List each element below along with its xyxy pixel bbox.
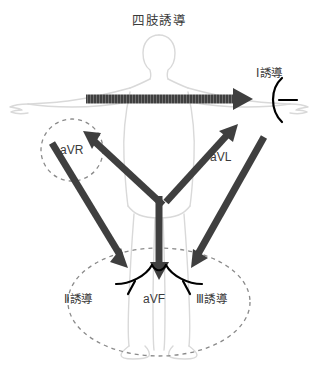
diagram-canvas: 四肢誘導 Ⅰ誘導 aVR aVL Ⅱ誘導 aVF Ⅲ誘導 — [0, 0, 318, 377]
up-left-arrow-icon — [83, 131, 163, 205]
limb-leads-svg — [0, 0, 318, 377]
page-title: 四肢誘導 — [0, 10, 318, 29]
label-lead-1: Ⅰ誘導 — [256, 64, 282, 80]
label-lead-2: Ⅱ誘導 — [64, 290, 93, 306]
label-avr: aVR — [60, 143, 83, 157]
label-lead-3: Ⅲ誘導 — [196, 290, 227, 306]
label-avf: aVF — [143, 292, 165, 306]
label-avl: aVL — [210, 150, 231, 164]
electrode-arc-icon — [116, 265, 152, 294]
electrode-arc-icon — [273, 78, 297, 122]
